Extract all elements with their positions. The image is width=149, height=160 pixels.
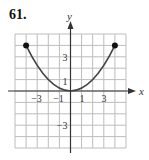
right-endpoint-dot [112,42,118,48]
graph: x y −3 −1 1 3 3 1 −3 [0,0,149,160]
left-endpoint-dot [23,42,29,48]
x-axis-arrow-icon [128,88,136,94]
y-axis-arrow-icon [68,21,74,29]
y-tick-label: 1 [63,76,68,87]
y-tick-label: 3 [63,52,68,63]
x-tick-label: −3 [31,93,42,104]
y-axis-label: y [66,10,72,22]
x-tick-label: 3 [102,93,107,104]
x-axis-label: x [138,85,144,97]
x-tick-label: 1 [80,93,85,104]
x-tick-label: −1 [53,93,64,104]
y-tick-label: −3 [57,120,68,131]
